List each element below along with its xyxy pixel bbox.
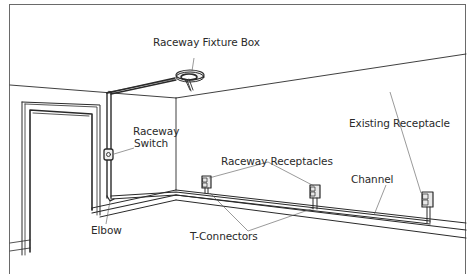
label-raceway-receptacles: Raceway Receptacles: [221, 155, 333, 167]
label-existing-receptacle: Existing Receptacle: [349, 117, 450, 129]
label-raceway-fixture-box: Raceway Fixture Box: [153, 36, 260, 48]
label-elbow: Elbow: [91, 224, 122, 236]
label-raceway-switch-line1: Raceway: [133, 125, 179, 137]
label-t-connectors: T-Connectors: [190, 230, 258, 242]
label-channel: Channel: [351, 173, 393, 185]
label-raceway-switch-line2: Switch: [134, 137, 168, 149]
